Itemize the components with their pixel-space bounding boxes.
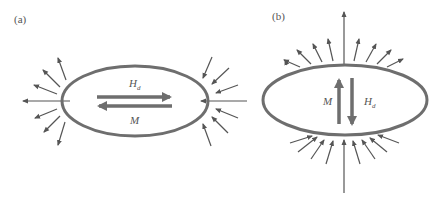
field-line-arrow [366, 44, 376, 62]
field-line-arrow [328, 39, 333, 61]
panel-b-label: (b) [272, 10, 285, 23]
panel-b-outgoing-field-arrows [284, 12, 403, 67]
field-line-arrow [35, 109, 57, 118]
field-line-arrow [34, 85, 57, 94]
field-line-arrow [370, 138, 387, 152]
panel-a-hd-label: Hd [128, 77, 141, 92]
field-line-arrow [387, 59, 403, 67]
field-line-arrow [311, 140, 324, 159]
panel-b-ellipse [263, 65, 427, 135]
field-line-arrow [216, 109, 238, 118]
panel-a-m-label: M [129, 114, 140, 126]
field-line-arrow [44, 116, 60, 132]
demagnetizing-field-diagram: (a) Hd M (b) [0, 0, 434, 200]
panel-a-label: (a) [14, 13, 27, 26]
field-line-arrow [362, 140, 375, 159]
panel-b-incoming-field-arrows [290, 135, 399, 193]
field-line-arrow [203, 124, 211, 146]
panel-a: (a) Hd M [14, 13, 247, 146]
field-line-arrow [212, 68, 229, 84]
field-line-arrow [313, 44, 322, 62]
field-line-arrow [353, 141, 360, 164]
panel-b-m-label: M [322, 95, 333, 107]
field-line-arrow [212, 117, 228, 133]
panel-b-hd-label: Hd [363, 95, 376, 110]
field-line-arrow [290, 136, 312, 143]
field-line-arrow [377, 50, 391, 64]
panel-b: (b) M Hd [263, 10, 427, 193]
field-line-arrow [216, 85, 238, 93]
field-line-arrow [58, 58, 66, 80]
field-line-arrow [297, 50, 311, 64]
field-line-arrow [43, 70, 60, 87]
field-line-arrow [354, 39, 359, 61]
field-line-arrow [326, 141, 333, 164]
field-line-arrow [378, 135, 399, 143]
field-line-arrow [203, 57, 212, 78]
field-line-arrow [58, 122, 65, 145]
